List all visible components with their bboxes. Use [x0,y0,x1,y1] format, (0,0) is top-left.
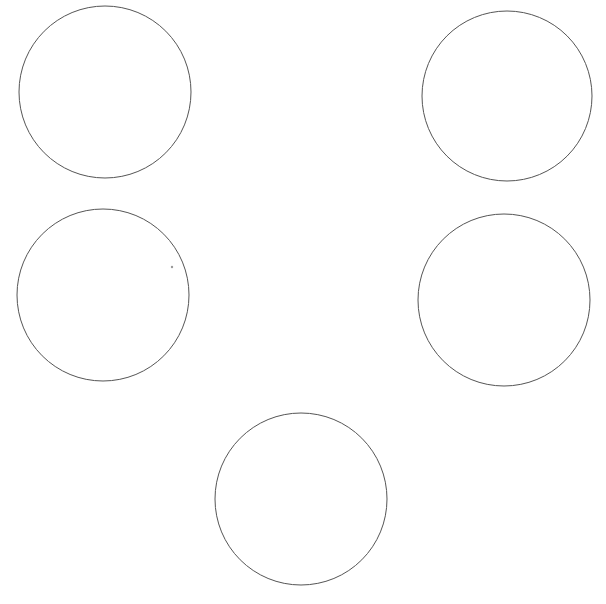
marks-group [171,266,173,268]
canvas-background [0,0,606,604]
drawing-canvas [0,0,606,604]
stray-dot [171,266,173,268]
